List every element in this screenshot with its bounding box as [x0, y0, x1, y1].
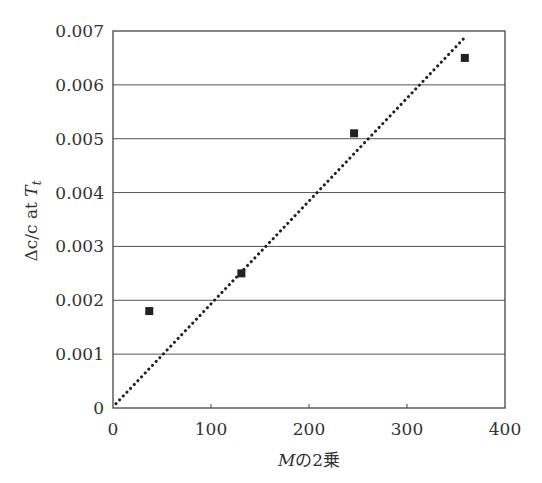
data-points — [145, 54, 469, 315]
y-tick-label: 0.002 — [55, 290, 104, 310]
y-tick-label: 0.005 — [55, 129, 104, 149]
x-axis-title: Mの2乗 — [277, 450, 340, 470]
gridlines — [113, 85, 505, 354]
y-tick-label: 0.001 — [55, 344, 104, 364]
x-tick-label: 0 — [108, 419, 119, 439]
y-axis-tick-labels: 00.0010.0020.0030.0040.0050.0060.007 — [55, 21, 104, 418]
x-tick-label: 300 — [391, 419, 423, 439]
plot-area — [113, 31, 505, 408]
x-tick-label: 200 — [293, 419, 325, 439]
data-point-marker — [350, 129, 358, 137]
x-axis-tick-labels: 0100200300400 — [108, 419, 522, 439]
y-axis-title: Δc/c at Tt — [21, 180, 44, 261]
data-point-marker — [145, 307, 153, 315]
y-tick-label: 0.006 — [55, 75, 104, 95]
x-tick-label: 400 — [489, 419, 521, 439]
y-axis-title-main: Δc/c at — [21, 197, 41, 262]
data-point-marker — [461, 54, 469, 62]
x-axis-title-var: M — [277, 450, 296, 470]
y-tick-label: 0.004 — [55, 183, 104, 203]
data-point-marker — [237, 269, 245, 277]
y-tick-label: 0.007 — [55, 21, 104, 41]
trendline — [116, 36, 466, 403]
x-tick-label: 100 — [195, 419, 227, 439]
y-axis-title-sub: t — [30, 180, 44, 185]
y-tick-label: 0.003 — [55, 236, 104, 256]
x-axis-title-rest: の2乗 — [295, 450, 340, 470]
scatter-chart: 00.0010.0020.0030.0040.0050.0060.007 010… — [0, 0, 542, 483]
y-tick-label: 0 — [93, 398, 104, 418]
